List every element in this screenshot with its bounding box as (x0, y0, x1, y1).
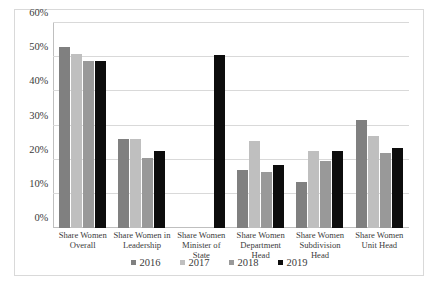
bar[interactable] (95, 61, 106, 228)
bar[interactable] (320, 161, 331, 228)
y-axis-tick-label: 10% (29, 177, 48, 188)
bar-group (290, 23, 349, 228)
y-axis-tick-label: 60% (29, 7, 48, 18)
x-axis-label: Share Women Department Head (231, 230, 290, 260)
y-axis-tick-label: 40% (29, 75, 48, 86)
bar[interactable] (332, 151, 343, 228)
x-axis-label: Share Women Overall (53, 230, 112, 260)
x-axis-label: Share Women Subdivision Head (290, 230, 349, 260)
bar[interactable] (356, 120, 367, 228)
chart-legend: 2016201720182019 (15, 257, 423, 268)
bar[interactable] (83, 61, 94, 228)
x-axis-labels: Share Women OverallShare Women in Leader… (53, 230, 409, 260)
bar[interactable] (59, 47, 70, 228)
legend-swatch-icon (278, 260, 283, 265)
bar[interactable] (273, 165, 284, 228)
legend-item[interactable]: 2017 (180, 257, 210, 268)
y-axis-tick-label: 0% (34, 212, 48, 223)
bar-group (172, 23, 231, 228)
bar-groups (53, 23, 409, 228)
bar[interactable] (237, 170, 248, 228)
legend-label: 2016 (140, 257, 161, 268)
bar[interactable] (296, 182, 307, 228)
y-axis-tick-label: 20% (29, 143, 48, 154)
bar[interactable] (368, 136, 379, 228)
legend-label: 2018 (238, 257, 259, 268)
bar[interactable] (392, 148, 403, 228)
bar[interactable] (118, 139, 129, 228)
legend-swatch-icon (229, 260, 234, 265)
bar-group (112, 23, 171, 228)
x-axis-label: Share Women Unit Head (350, 230, 409, 260)
bar-group (53, 23, 112, 228)
legend-swatch-icon (131, 260, 136, 265)
x-axis-label: Share Women Minister of State (172, 230, 231, 260)
x-axis-label: Share Women in Leadership (112, 230, 171, 260)
legend-item[interactable]: 2019 (278, 257, 308, 268)
legend-label: 2017 (189, 257, 210, 268)
chart-container: 0%10%20%30%40%50%60% Share Women Overall… (14, 9, 424, 276)
bar[interactable] (154, 151, 165, 228)
legend-label: 2019 (287, 257, 308, 268)
y-axis-tick-label: 30% (29, 109, 48, 120)
bar[interactable] (261, 172, 272, 228)
bar[interactable] (130, 139, 141, 228)
plot-area: 0%10%20%30%40%50%60% (53, 23, 409, 228)
legend-item[interactable]: 2018 (229, 257, 259, 268)
legend-swatch-icon (180, 260, 185, 265)
bar[interactable] (308, 151, 319, 228)
bar[interactable] (380, 153, 391, 228)
legend-item[interactable]: 2016 (131, 257, 161, 268)
bar[interactable] (71, 54, 82, 228)
bar[interactable] (249, 141, 260, 228)
bar[interactable] (214, 55, 225, 228)
y-axis-tick-label: 50% (29, 41, 48, 52)
bar[interactable] (142, 158, 153, 228)
bar-group (350, 23, 409, 228)
bar-group (231, 23, 290, 228)
